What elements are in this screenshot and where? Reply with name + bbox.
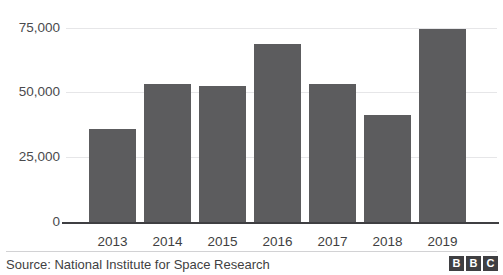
x-axis-tick-label: 2018 xyxy=(360,232,415,252)
x-axis-tick-label: 2016 xyxy=(250,232,305,252)
bar xyxy=(144,84,191,222)
footer-divider xyxy=(6,251,497,252)
x-axis-tick-label: 2013 xyxy=(85,232,140,252)
bar xyxy=(254,44,301,222)
bars-group xyxy=(0,6,503,238)
x-axis-tick-label: 2017 xyxy=(305,232,360,252)
bar xyxy=(364,115,411,222)
plot-area: 025,00050,00075,000 20132014201520162017… xyxy=(0,6,503,238)
bbc-logo-letter: C xyxy=(483,256,498,271)
x-axis-tick-label: 2019 xyxy=(415,232,470,252)
chart-title-clipped: Number of fires detected xyxy=(0,0,503,5)
bar xyxy=(199,86,246,222)
bbc-logo: BBC xyxy=(449,256,498,271)
x-axis-tick-label: 2015 xyxy=(195,232,250,252)
bbc-logo-letter: B xyxy=(466,256,481,271)
source-note: Source: National Institute for Space Res… xyxy=(6,256,270,273)
bar xyxy=(89,129,136,222)
x-axis-tick-label: 2014 xyxy=(140,232,195,252)
bar xyxy=(419,29,466,222)
bar xyxy=(309,84,356,222)
bar-chart-figure: Number of fires detected 025,00050,00075… xyxy=(0,0,503,275)
bbc-logo-letter: B xyxy=(449,256,464,271)
chart-title-text: Number of fires detected xyxy=(210,0,363,3)
